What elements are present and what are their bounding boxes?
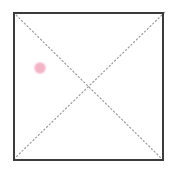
pink-marker-dot[interactable] — [34, 62, 46, 74]
diagram-svg — [0, 0, 175, 176]
diagram-canvas — [0, 0, 175, 176]
pink-marker-dot-core — [35, 63, 45, 73]
